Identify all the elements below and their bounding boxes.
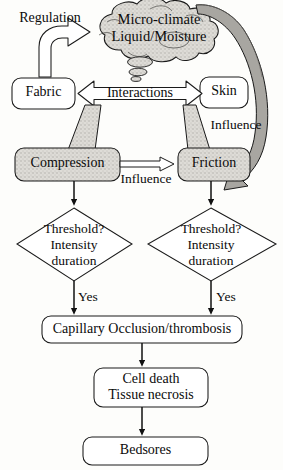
node-compression bbox=[15, 148, 120, 181]
arrow-compression-to-friction bbox=[120, 157, 174, 171]
node-bedsores bbox=[83, 437, 208, 465]
diagram-vector-layer bbox=[0, 0, 283, 470]
moisture-droplet-icons bbox=[128, 57, 153, 82]
node-cell-death bbox=[94, 368, 208, 407]
node-decision-left bbox=[17, 208, 132, 281]
node-decision-right bbox=[148, 208, 276, 281]
funnel-to-friction bbox=[183, 105, 210, 150]
node-skin bbox=[200, 77, 248, 108]
node-capillary-occlusion bbox=[42, 316, 242, 343]
curved-arrow-regulation bbox=[39, 18, 90, 77]
flowchart-diagram: Micro-climate Liquid/Moisture Regulation… bbox=[0, 0, 283, 470]
funnel-to-compression bbox=[68, 105, 101, 150]
double-arrow-interactions bbox=[78, 81, 202, 106]
node-fabric bbox=[12, 78, 75, 109]
node-friction bbox=[178, 148, 250, 181]
